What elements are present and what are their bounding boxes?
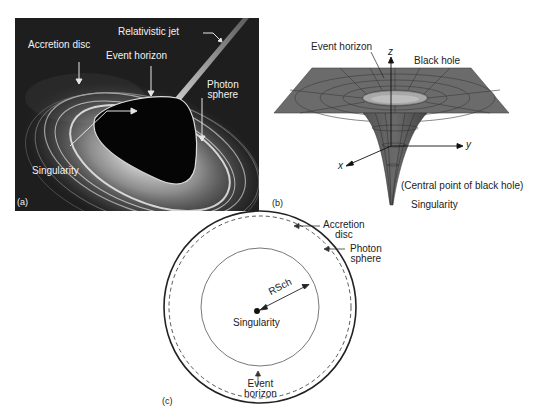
panel-a-tag: (a) xyxy=(17,198,28,207)
label-event-horizon: Event horizon xyxy=(311,42,372,52)
label-event-horizon: Event horizon xyxy=(244,379,277,399)
panel-c-tag: (c) xyxy=(162,397,173,406)
panel-b-tag: (b) xyxy=(272,199,283,208)
label-black-hole: Black hole xyxy=(414,56,460,66)
event-horizon-circle xyxy=(201,248,319,366)
panel-a-artist-rendering: Relativistic jet Accretion disc Event ho… xyxy=(15,18,259,211)
label-photon-sphere: Photon sphere xyxy=(207,80,239,100)
label-accretion-disc-line2: disc xyxy=(335,229,353,240)
label-central-point: (Central point of black hole) xyxy=(401,181,523,191)
panel-b-spacetime-funnel: Event horizon z Black hole y x (Central … xyxy=(270,0,540,218)
cross-section-diagram xyxy=(160,210,410,418)
label-accretion-disc: Accretion disc xyxy=(323,220,365,240)
photon-sphere-circle xyxy=(169,216,351,398)
label-singularity: Singularity xyxy=(32,166,79,176)
axis-label-z: z xyxy=(388,47,393,57)
label-event-horizon: Event horizon xyxy=(106,51,167,61)
axis-label-x: x xyxy=(338,161,343,171)
label-accretion-disc: Accretion disc xyxy=(28,40,90,50)
label-singularity: Singularity xyxy=(411,200,458,210)
label-event-horizon-line2: horizon xyxy=(244,388,277,399)
singularity-dot xyxy=(254,308,260,314)
label-photon-sphere-line2: sphere xyxy=(351,253,382,264)
label-relativistic-jet: Relativistic jet xyxy=(118,27,179,37)
gravity-well-funnel xyxy=(363,113,427,205)
label-photon-sphere-line2: sphere xyxy=(208,89,239,100)
axis-label-y: y xyxy=(466,140,471,150)
panel-c-cross-section: Accretion disc Photon sphere RSch Singul… xyxy=(160,210,410,418)
panel-c-pointers xyxy=(256,224,346,386)
label-singularity: Singularity xyxy=(233,318,280,328)
label-photon-sphere: Photon sphere xyxy=(350,244,382,264)
